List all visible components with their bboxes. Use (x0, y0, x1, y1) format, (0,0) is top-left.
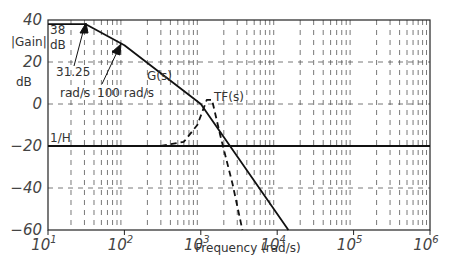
grid (48, 20, 430, 235)
y-tick-40: 40 (23, 11, 42, 29)
curve-tfs (161, 100, 243, 230)
label-g-s: G(s) (147, 69, 172, 83)
label-38: 38 (50, 23, 65, 37)
ylabel-gain: |Gain| (11, 35, 47, 49)
y-tick-m20: −20 (10, 137, 42, 155)
y-tick-20: 20 (23, 53, 42, 71)
x-tick-label: 101 (31, 234, 56, 254)
x-axis-label: Frequency (rad/s) (195, 241, 300, 255)
x-tick-label: 102 (108, 234, 133, 254)
label-tf-s: TF(s) (213, 90, 244, 104)
curve-gs (48, 24, 288, 230)
y-tick-0: 0 (32, 95, 42, 113)
bode-plot: 40 20 0 −20 −40 −60 101102103104105106 |… (0, 0, 456, 280)
label-31-25: 31.25 (56, 65, 90, 79)
curves (48, 24, 430, 230)
label-1-over-h: 1/H (50, 131, 71, 145)
label-38-db: dB (50, 38, 66, 52)
ylabel-db: dB (16, 75, 32, 89)
label-rad-s: rad/s (60, 86, 90, 100)
x-tick-label: 106 (413, 234, 438, 254)
label-100-rad-s: 100 rad/s (97, 86, 154, 100)
plot-frame (48, 20, 430, 230)
x-tick-label: 105 (337, 234, 362, 254)
y-tick-m40: −40 (10, 179, 42, 197)
